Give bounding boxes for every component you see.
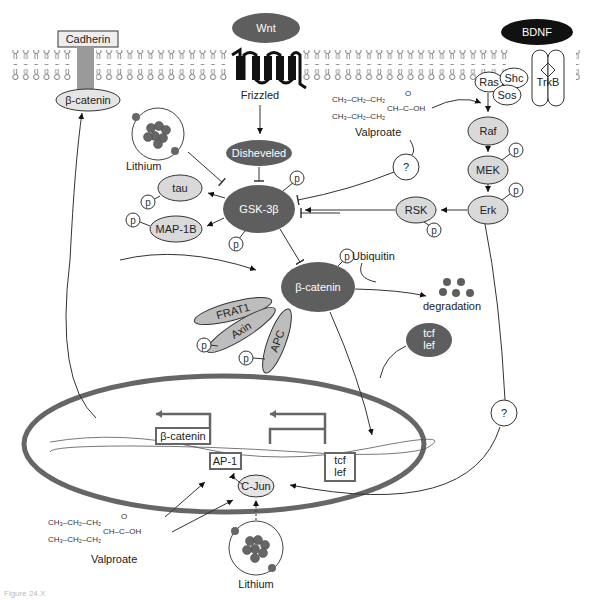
- mek-label: MEK: [476, 164, 501, 176]
- gsk3b-label: GSK-3β: [239, 203, 278, 215]
- svg-text:tcf: tcf: [423, 327, 436, 339]
- map1b-label: MAP-1B: [156, 223, 197, 235]
- lithium-top-label: Lithium: [126, 160, 161, 172]
- degradation-label: degradation: [423, 300, 481, 312]
- destruction-complex: FRAT1 Axin APC p p: [192, 292, 297, 376]
- svg-text:p: p: [344, 251, 350, 262]
- sos-label: Sos: [498, 89, 517, 101]
- svg-text:?: ?: [403, 161, 409, 173]
- lithium-bottom-label: Lithium: [238, 578, 273, 590]
- svg-text:tcf: tcf: [334, 454, 347, 466]
- dna-strand: [50, 437, 435, 457]
- svg-text:p: p: [513, 145, 519, 156]
- frizzled-label: Frizzled: [241, 89, 280, 101]
- svg-text:p: p: [130, 215, 136, 226]
- svg-text:CH–C–OH: CH–C–OH: [387, 104, 425, 113]
- svg-text:CH–C–OH: CH–C–OH: [103, 527, 141, 536]
- svg-text:p: p: [431, 225, 437, 236]
- signaling-pathway-diagram: Cadherin β-catenin Wnt Frizzled BDNF Trk…: [0, 0, 599, 600]
- cadherin-label: Cadherin: [66, 33, 111, 45]
- svg-text:CH₃–CH₂–CH₂: CH₃–CH₂–CH₂: [332, 112, 385, 121]
- nucleus-membrane: [24, 376, 424, 512]
- svg-text:p: p: [243, 353, 249, 364]
- tau-label: tau: [172, 182, 187, 194]
- shc-label: Shc: [505, 72, 524, 84]
- svg-text:?: ?: [501, 407, 507, 419]
- svg-text:β-catenin: β-catenin: [160, 430, 205, 442]
- svg-text:p: p: [145, 197, 151, 208]
- ubiquitin-label: Ubiquitin: [352, 250, 395, 262]
- svg-text:O: O: [405, 89, 411, 98]
- valproate-bottom-label: Valproate: [91, 553, 137, 565]
- svg-text:p: p: [233, 239, 239, 250]
- degradation-dots: [439, 278, 474, 297]
- figure-caption: Figure 24.X: [4, 589, 45, 598]
- svg-text:p: p: [513, 185, 519, 196]
- rsk-label: RSK: [405, 204, 428, 216]
- svg-text:CH₃–CH₂–CH₂: CH₃–CH₂–CH₂: [48, 518, 101, 527]
- valproate-top-label: Valproate: [355, 126, 401, 138]
- svg-text:p: p: [201, 340, 207, 351]
- bdnf-label: BDNF: [522, 26, 552, 38]
- lithium-bottom: Lithium: [229, 521, 283, 590]
- svg-text:AP-1: AP-1: [213, 455, 237, 467]
- svg-text:p: p: [294, 173, 300, 184]
- svg-text:O: O: [121, 512, 127, 521]
- erk-label: Erk: [480, 204, 497, 216]
- nuclear-promoter-boxes: β-catenin AP-1 tcf lef: [156, 410, 355, 481]
- wnt-label: Wnt: [256, 22, 276, 34]
- lithium-top: Lithium: [126, 108, 184, 172]
- trkb-label: TrkB: [537, 76, 560, 88]
- svg-text:lef: lef: [334, 466, 347, 478]
- raf-label: Raf: [479, 125, 497, 137]
- valproate-top: CH₃–CH₂–CH₂ CH₃–CH₂–CH₂ CH–C–OH O Valpro…: [332, 89, 425, 138]
- membrane-beta-catenin-label: β-catenin: [65, 94, 110, 106]
- disheveled-label: Disheveled: [232, 147, 286, 159]
- valproate-bottom: CH₃–CH₂–CH₂ CH₃–CH₂–CH₂ CH–C–OH O Valpro…: [48, 512, 141, 565]
- ras-label: Ras: [479, 76, 499, 88]
- svg-text:CH₃–CH₂–CH₂: CH₃–CH₂–CH₂: [332, 95, 385, 104]
- svg-text:CH₃–CH₂–CH₂: CH₃–CH₂–CH₂: [48, 535, 101, 544]
- cjun-label: C-Jun: [241, 480, 270, 492]
- svg-text:lef: lef: [423, 339, 436, 351]
- beta-catenin-label: β-catenin: [295, 281, 340, 293]
